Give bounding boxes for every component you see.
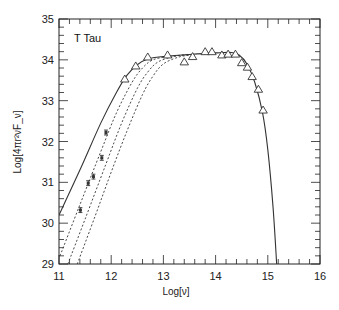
chart-title: T Tau — [74, 32, 101, 44]
x-tick-label: 14 — [209, 270, 221, 282]
errorbar-marker — [104, 131, 107, 134]
errorbar-marker — [79, 209, 82, 212]
x-tick-label: 13 — [157, 270, 169, 282]
triangle-marker — [231, 50, 239, 57]
x-tick-label: 15 — [262, 270, 274, 282]
triangle-marker — [144, 53, 152, 60]
errorbar-marker — [100, 156, 103, 159]
y-tick-label: 32 — [42, 136, 54, 148]
y-tick-label: 33 — [42, 95, 54, 107]
y-tick-label: 35 — [42, 13, 54, 25]
y-tick-label: 34 — [42, 54, 54, 66]
model-curve-dotted — [68, 55, 190, 264]
data-markers — [78, 48, 267, 213]
y-tick-label: 30 — [42, 217, 54, 229]
triangle-marker — [208, 48, 216, 55]
x-tick-label: 11 — [53, 270, 64, 282]
plot-border — [59, 19, 320, 264]
y-tick-label: 29 — [42, 258, 54, 270]
errorbar-marker — [92, 175, 95, 178]
triangle-marker — [121, 75, 129, 82]
triangle-marker — [163, 51, 171, 58]
y-tick-label: 31 — [42, 176, 54, 188]
y-axis-label: Log[4πr²νF_ν] — [12, 110, 23, 173]
triangle-marker — [259, 106, 267, 113]
triangle-marker — [132, 62, 140, 69]
model-curve-dotted — [77, 55, 194, 264]
model-curves — [59, 52, 277, 264]
axis-ticks — [59, 19, 320, 264]
errorbar-marker — [87, 182, 90, 185]
tick-labels: 11121314151629303132333435 — [42, 13, 326, 282]
sed-plot: 11121314151629303132333435 T Tau Log[ν] … — [0, 0, 339, 310]
x-axis-label: Log[ν] — [162, 286, 189, 297]
x-tick-label: 16 — [314, 270, 326, 282]
triangle-marker — [248, 73, 256, 80]
model-curve-dotted — [60, 55, 189, 256]
triangle-marker — [180, 58, 188, 65]
plot-frame — [59, 19, 320, 264]
model-curve-solid — [59, 52, 277, 264]
x-tick-label: 12 — [105, 270, 117, 282]
triangle-marker — [224, 50, 232, 57]
